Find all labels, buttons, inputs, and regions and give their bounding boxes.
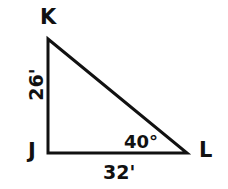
vertex-label-k: K xyxy=(40,7,56,28)
vertex-label-j: J xyxy=(28,141,36,162)
side-length-label-jl: 32' xyxy=(103,163,135,182)
side-length-label-jk: 26' xyxy=(27,61,46,109)
vertex-label-l: L xyxy=(199,140,212,161)
triangle-jkl-outline xyxy=(48,39,187,153)
angle-measure-label-l: 40° xyxy=(124,133,158,151)
geometry-figure: K J L 26' 32' 40° xyxy=(0,0,228,189)
